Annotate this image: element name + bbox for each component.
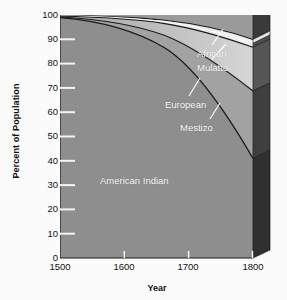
y-tick-70: 70 xyxy=(34,83,58,93)
y-tick-80: 80 xyxy=(34,58,58,68)
x-axis-title: Year xyxy=(60,283,254,293)
y-tick-20: 20 xyxy=(34,204,58,214)
y-tick-60: 60 xyxy=(34,107,58,117)
y-tick-10: 10 xyxy=(34,229,58,239)
y-tick-100: 100 xyxy=(34,10,58,20)
y-axis-title: Percent of Population xyxy=(11,71,21,191)
band-label-mulatto: Mulatto xyxy=(197,62,228,73)
chart-figure: Percent of Population 100 90 80 70 60 50… xyxy=(0,0,287,300)
plot-area: African Mulatto European Mestizo America… xyxy=(60,15,253,258)
band-label-american-indian: American Indian xyxy=(100,175,169,186)
y-tick-90: 90 xyxy=(34,34,58,44)
band-label-african: African xyxy=(197,48,227,59)
y-tick-40: 40 xyxy=(34,156,58,166)
y-axis-tick-labels: 100 90 80 70 60 50 40 30 20 10 0 xyxy=(32,0,58,300)
y-tick-30: 30 xyxy=(34,180,58,190)
band-label-mestizo: Mestizo xyxy=(180,122,213,133)
side-depth-panel xyxy=(253,15,270,258)
stacked-area-svg xyxy=(60,15,287,270)
band-label-european: European xyxy=(165,99,206,110)
y-tick-50: 50 xyxy=(34,131,58,141)
